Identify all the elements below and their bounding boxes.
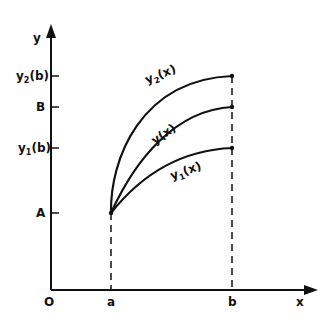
svg-text:y2(b): y2(b) — [16, 69, 49, 85]
x-tick-b: b — [228, 76, 237, 309]
start-point-A — [109, 211, 113, 215]
svg-text:y2(x): y2(x) — [143, 62, 179, 89]
y-tick-B: B — [36, 100, 59, 114]
y-tick-y1b: y1(b) — [18, 141, 59, 157]
svg-text:b: b — [228, 295, 237, 309]
diagram-figure: y x O y2(b) B y1(b) A a — [0, 0, 332, 323]
svg-text:A: A — [36, 206, 46, 220]
y-tick-A: A — [36, 206, 59, 220]
y-axis-arrow-icon — [46, 24, 56, 38]
y-tick-y2b: y2(b) — [16, 69, 59, 85]
curve-y2: y2(x) — [111, 62, 234, 213]
svg-text:B: B — [36, 100, 45, 114]
x-axis-label: x — [296, 295, 304, 309]
x-axis: x O — [44, 285, 318, 309]
y-axis: y — [33, 24, 56, 290]
x-tick-a: a — [107, 213, 115, 309]
y-axis-label: y — [33, 31, 41, 45]
x-axis-arrow-icon — [304, 285, 318, 295]
svg-text:y1(b): y1(b) — [18, 141, 51, 157]
origin-label: O — [44, 295, 54, 309]
curve-y: y(x) — [111, 105, 234, 213]
svg-text:a: a — [107, 295, 115, 309]
svg-text:y(x): y(x) — [149, 121, 179, 148]
